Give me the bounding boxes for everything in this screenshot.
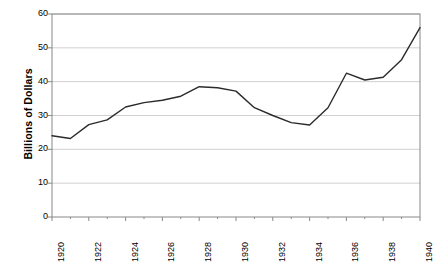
data-line-series	[52, 28, 420, 139]
line-chart: Billions of Dollars 0102030405060 192019…	[0, 0, 437, 268]
plot-area	[0, 0, 437, 268]
axis-ticks	[48, 14, 420, 221]
gridlines	[52, 14, 420, 183]
